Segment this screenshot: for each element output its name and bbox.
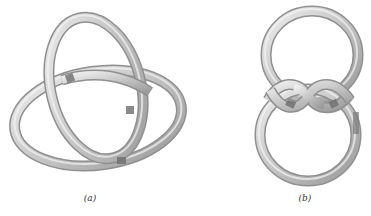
panel-b: (b) bbox=[190, 0, 371, 216]
caption-b: (b) bbox=[290, 193, 320, 203]
caption-a: (a) bbox=[75, 193, 105, 203]
trefoil-knot-illustration bbox=[0, 0, 190, 190]
panel-a: (a) bbox=[0, 0, 190, 216]
double-loop-knot-illustration bbox=[190, 0, 371, 190]
